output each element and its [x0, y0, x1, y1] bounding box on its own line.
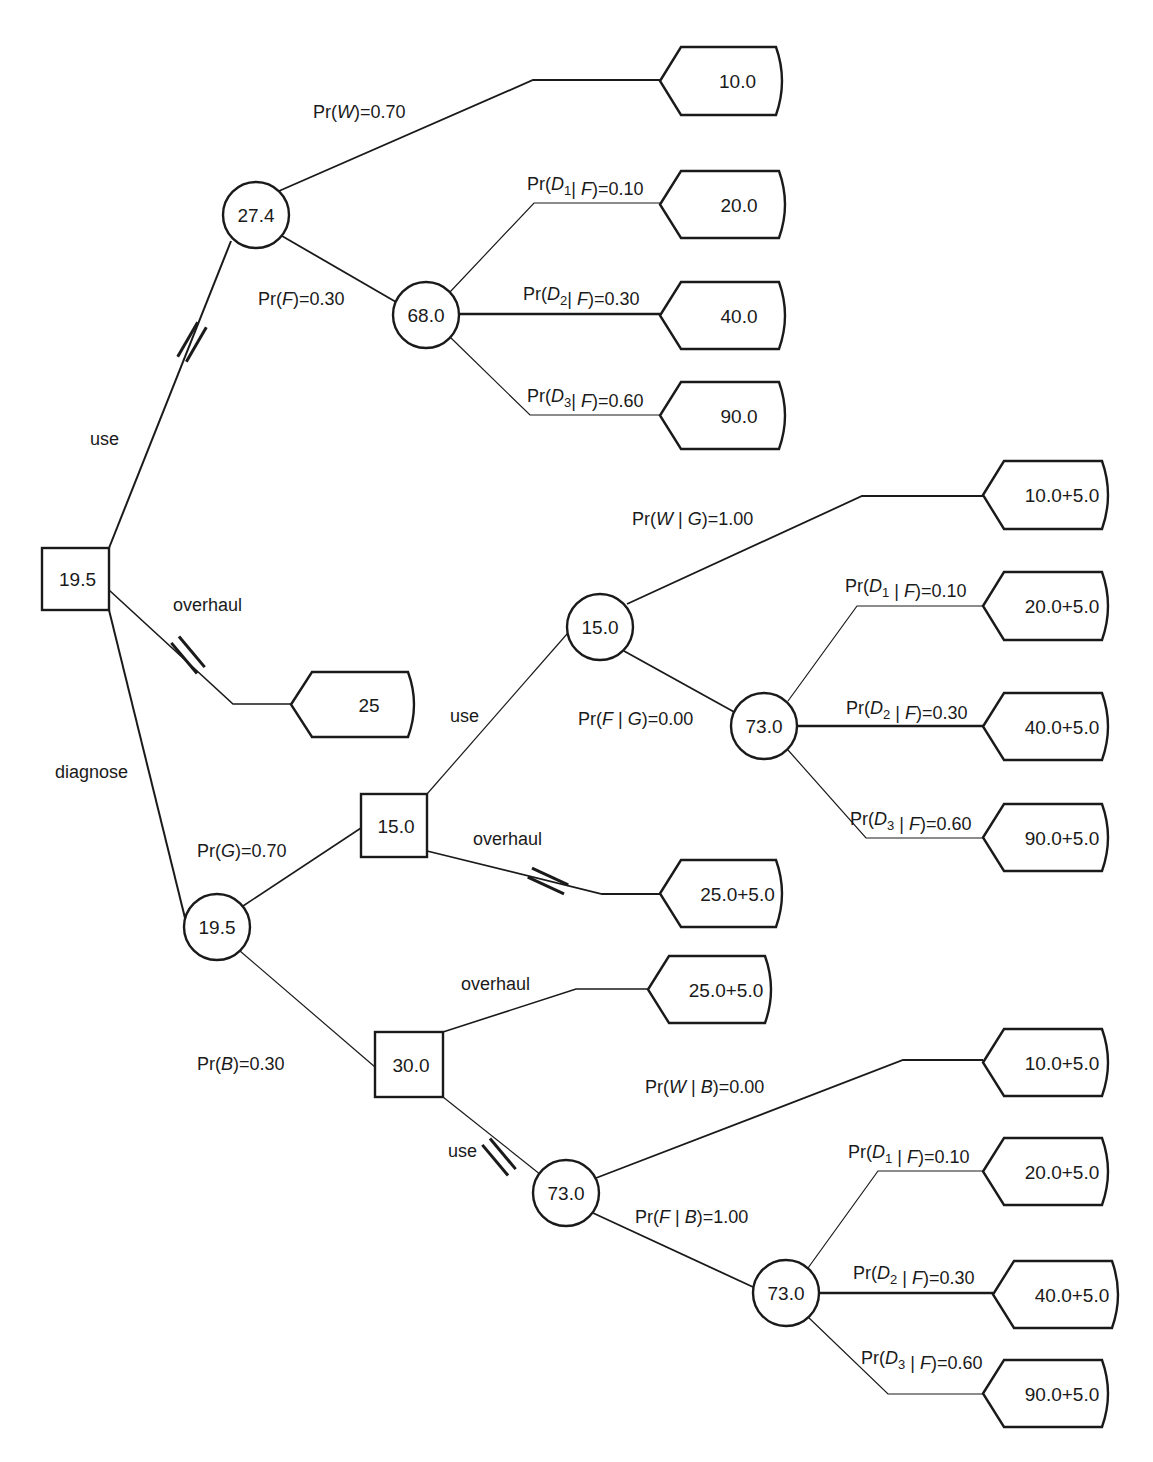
branch-label-lbl-prFB: Pr(F | B)=1.00 — [635, 1207, 748, 1227]
decision-node-value: 30.0 — [393, 1055, 430, 1076]
decision-node: 19.5 — [42, 548, 109, 610]
terminal-node-shape — [291, 672, 414, 737]
terminal-payoff-value: 25.0+5.0 — [700, 884, 775, 905]
branch-label-lbl-prFG: Pr(F | G)=0.00 — [578, 709, 693, 729]
terminal-node: 40.0 — [660, 282, 785, 349]
branch-label-lbl-prW: Pr(W)=0.70 — [313, 102, 406, 122]
chance-node-value: 19.5 — [199, 917, 236, 938]
chance-node: 19.5 — [184, 894, 250, 960]
branch-line-e-bad-use — [443, 1097, 541, 1175]
branch-label-lbl-good-D3: Pr(D3 | F)=0.60 — [850, 809, 971, 834]
branch-line-e-guf-D1 — [788, 606, 983, 701]
terminal-payoff-value: 20.0+5.0 — [1025, 596, 1100, 617]
decision-node: 15.0 — [361, 794, 427, 857]
terminal-payoff-value: 20.0+5.0 — [1025, 1162, 1100, 1183]
terminal-node: 40.0+5.0 — [983, 693, 1108, 760]
chance-node-value: 27.4 — [238, 205, 275, 226]
branch-line-e-bad-overhaul — [443, 989, 648, 1032]
branch-label-lbl-bad-D2: Pr(D2 | F)=0.30 — [853, 1263, 974, 1288]
branch-line-e-buf-D1 — [808, 1171, 983, 1268]
terminal-payoff-value: 10.0+5.0 — [1025, 485, 1100, 506]
chance-node-value: 73.0 — [548, 1183, 585, 1204]
branch-line-e-root-use — [109, 241, 231, 548]
terminal-payoff-value: 90.0 — [721, 406, 758, 427]
terminal-payoff-value: 25.0+5.0 — [689, 980, 764, 1001]
decision-tree-diagram: 19.515.030.027.468.019.515.073.073.073.0… — [0, 0, 1153, 1462]
branch-label-lbl-prWB: Pr(W | B)=0.00 — [645, 1077, 764, 1097]
branch-labels: useoverhauldiagnosePr(W)=0.70Pr(F)=0.30P… — [55, 102, 982, 1373]
terminal-node: 25.0+5.0 — [660, 860, 782, 927]
terminal-payoff-value: 40.0+5.0 — [1035, 1285, 1110, 1306]
branch-label-lbl-bad-overhaul: overhaul — [461, 974, 530, 994]
terminal-node: 10.0+5.0 — [983, 461, 1108, 529]
chance-node-value: 68.0 — [408, 305, 445, 326]
branch-label-lbl-good-D1: Pr(D1 | F)=0.10 — [845, 576, 966, 601]
terminal-node: 20.0 — [660, 171, 785, 238]
terminal-payoff-value: 40.0 — [721, 306, 758, 327]
branch-line-e-diag-good — [243, 828, 361, 906]
blocked-branch-marks — [171, 322, 568, 1175]
chance-node: 27.4 — [223, 182, 289, 248]
chance-node: 73.0 — [533, 1160, 599, 1226]
branch-label-lbl-use-D3: Pr(D3| F)=0.60 — [527, 386, 643, 411]
chance-node: 73.0 — [731, 693, 797, 759]
branch-label-lbl-good-use: use — [450, 706, 479, 726]
blocked-mark-icon — [178, 322, 207, 362]
terminal-node: 10.0+5.0 — [983, 1029, 1108, 1096]
branch-line-e-use-W — [279, 80, 660, 191]
branch-label-lbl-root-overhaul: overhaul — [173, 595, 242, 615]
branch-label-lbl-root-use: use — [90, 429, 119, 449]
decision-node-value: 19.5 — [59, 569, 96, 590]
branch-label-lbl-prWG: Pr(W | G)=1.00 — [632, 509, 753, 529]
terminal-node: 20.0+5.0 — [983, 572, 1108, 640]
branch-line-e-F-D1 — [450, 203, 660, 292]
branch-label-lbl-bad-D1: Pr(D1 | F)=0.10 — [848, 1142, 969, 1167]
branch-label-lbl-bad-use: use — [448, 1141, 477, 1161]
branch-label-lbl-prF: Pr(F)=0.30 — [258, 289, 345, 309]
nodes-layer: 19.515.030.027.468.019.515.073.073.073.0… — [42, 47, 1118, 1427]
branch-line-e-good-use — [427, 634, 567, 794]
terminal-payoff-value: 40.0+5.0 — [1025, 717, 1100, 738]
terminal-node: 25.0+5.0 — [648, 956, 771, 1023]
chance-node-value: 73.0 — [768, 1283, 805, 1304]
branch-label-lbl-bad-D3: Pr(D3 | F)=0.60 — [861, 1348, 982, 1373]
terminal-payoff-value: 20.0 — [721, 195, 758, 216]
branch-label-lbl-use-D2: Pr(D2| F)=0.30 — [523, 284, 639, 309]
blocked-mark-icon — [482, 1138, 515, 1175]
branch-label-lbl-good-overhaul: overhaul — [473, 829, 542, 849]
chance-node: 15.0 — [567, 594, 633, 660]
decision-node: 30.0 — [375, 1032, 443, 1097]
terminal-payoff-value: 90.0+5.0 — [1025, 828, 1100, 849]
chance-node-value: 73.0 — [746, 716, 783, 737]
branch-label-lbl-use-D1: Pr(D1| F)=0.10 — [527, 174, 643, 199]
terminal-node: 90.0+5.0 — [983, 804, 1108, 871]
terminal-node: 25 — [291, 672, 414, 737]
branch-label-lbl-prB: Pr(B)=0.30 — [197, 1054, 285, 1074]
branch-label-lbl-prG: Pr(G)=0.70 — [197, 841, 287, 861]
branch-label-lbl-good-D2: Pr(D2 | F)=0.30 — [846, 698, 967, 723]
terminal-payoff-value: 10.0+5.0 — [1025, 1053, 1100, 1074]
terminal-node: 90.0+5.0 — [983, 1360, 1108, 1427]
terminal-payoff-value: 10.0 — [719, 71, 756, 92]
blocked-mark-icon — [171, 636, 204, 673]
terminal-node: 20.0+5.0 — [983, 1138, 1108, 1205]
chance-node: 68.0 — [393, 282, 459, 348]
branch-line-e-gus-F — [624, 651, 736, 713]
branch-line-e-diag-bad — [240, 951, 375, 1067]
terminal-payoff-value: 25 — [358, 695, 379, 716]
terminal-node: 10.0 — [660, 47, 782, 115]
terminal-node: 90.0 — [660, 382, 785, 449]
decision-node-value: 15.0 — [378, 816, 415, 837]
branch-label-lbl-root-diagnose: diagnose — [55, 762, 128, 782]
terminal-node: 40.0+5.0 — [993, 1261, 1118, 1328]
chance-node-value: 15.0 — [582, 617, 619, 638]
terminal-payoff-value: 90.0+5.0 — [1025, 1384, 1100, 1405]
chance-node: 73.0 — [753, 1260, 819, 1326]
